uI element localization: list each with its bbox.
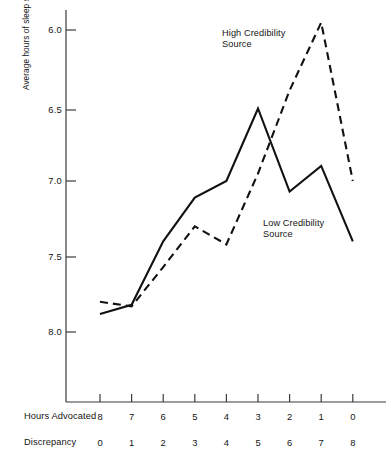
x-tick-label-hours-5: 5 bbox=[188, 411, 202, 422]
x-tick-label-hours-8: 8 bbox=[93, 411, 107, 422]
x-tick-label-hours-0: 0 bbox=[346, 411, 360, 422]
x-tick-label-hours-1: 1 bbox=[314, 411, 328, 422]
x-axis-ticks bbox=[100, 394, 353, 402]
y-tick-label-6-5: 6.5 bbox=[36, 104, 62, 115]
y-tick-label-6-0: 6.0 bbox=[36, 24, 62, 35]
y-tick-label-8-0: 8.0 bbox=[36, 326, 62, 337]
annotation-low-line2: Source bbox=[263, 229, 293, 239]
series-line-high-credibility bbox=[100, 23, 353, 307]
x-tick-label-hours-2: 2 bbox=[283, 411, 297, 422]
x-tick-label-hours-6: 6 bbox=[156, 411, 170, 422]
y-axis-ticks bbox=[66, 30, 76, 332]
x-tick-label-discrepancy-5: 5 bbox=[251, 437, 265, 448]
x-tick-label-discrepancy-8: 8 bbox=[346, 437, 360, 448]
x-tick-label-hours-3: 3 bbox=[251, 411, 265, 422]
x-tick-label-discrepancy-2: 2 bbox=[156, 437, 170, 448]
x-tick-label-hours-7: 7 bbox=[125, 411, 139, 422]
y-tick-label-7-5: 7.5 bbox=[36, 251, 62, 262]
series-line-low-credibility bbox=[100, 109, 353, 314]
annotation-low-line1: Low Credibility bbox=[263, 218, 324, 228]
x-tick-label-discrepancy-6: 6 bbox=[283, 437, 297, 448]
annotation-low-credibility: Low Credibility Source bbox=[263, 218, 324, 241]
annotation-high-line2: Source bbox=[222, 39, 252, 49]
plot-canvas bbox=[0, 0, 391, 456]
chart-figure: Average hours of sleep subjects believed… bbox=[0, 0, 391, 456]
x-tick-label-discrepancy-0: 0 bbox=[93, 437, 107, 448]
x-tick-label-discrepancy-4: 4 bbox=[219, 437, 233, 448]
x-tick-label-discrepancy-3: 3 bbox=[188, 437, 202, 448]
y-tick-label-7-0: 7.0 bbox=[36, 175, 62, 186]
y-axis-title: Average hours of sleep subjects believed… bbox=[22, 0, 31, 90]
x-tick-label-discrepancy-1: 1 bbox=[125, 437, 139, 448]
row-label-discrepancy: Discrepancy bbox=[24, 437, 76, 447]
row-label-hours-advocated: Hours Advocated bbox=[24, 411, 96, 421]
x-tick-label-discrepancy-7: 7 bbox=[314, 437, 328, 448]
x-tick-label-hours-4: 4 bbox=[219, 411, 233, 422]
annotation-high-credibility: High Credibility Source bbox=[222, 28, 285, 51]
annotation-high-line1: High Credibility bbox=[222, 28, 285, 38]
